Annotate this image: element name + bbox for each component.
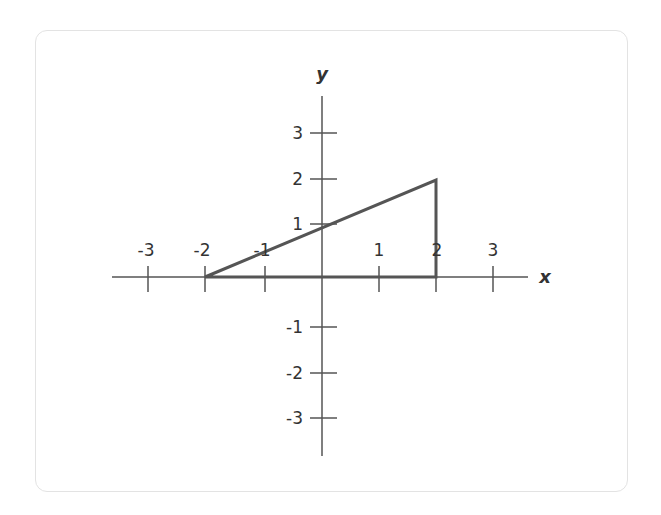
x-tick-labels: -3 -2 -1 1 2 3 <box>138 240 499 260</box>
x-tick-label: -2 <box>194 240 211 260</box>
y-axis-label: y <box>316 63 329 84</box>
x-tick-label: 2 <box>432 240 443 260</box>
y-tick-label: -1 <box>286 317 303 337</box>
y-tick-label: 1 <box>292 214 303 234</box>
y-tick-label: 3 <box>292 123 303 143</box>
x-tick-label: 3 <box>488 240 499 260</box>
coordinate-plane: -3 -2 -1 1 2 3 3 2 1 -1 -2 -3 x y <box>0 0 661 515</box>
x-axis-label: x <box>538 266 552 287</box>
x-tick-label: 1 <box>374 240 385 260</box>
x-tick-label: -1 <box>254 240 271 260</box>
x-tick-label: -3 <box>138 240 155 260</box>
y-tick-label: -3 <box>286 408 303 428</box>
triangle-shape <box>205 180 436 277</box>
y-tick-label: -2 <box>286 363 303 383</box>
x-ticks <box>148 266 493 292</box>
y-tick-label: 2 <box>292 169 303 189</box>
